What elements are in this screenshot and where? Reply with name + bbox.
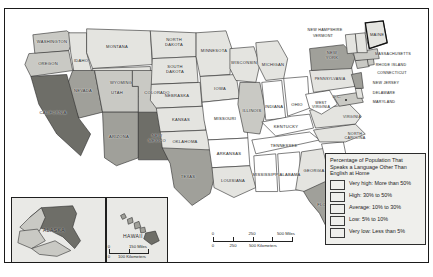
state-wisconsin <box>230 47 260 83</box>
legend-item-average: Average: 10% to 30% <box>330 204 422 215</box>
alaska-label: ALASKA <box>43 227 65 233</box>
main-mi-unit: 500 Miles <box>277 231 295 236</box>
state-north-dakota <box>150 31 196 59</box>
legend-label-very-low: Very low: Less than 5% <box>349 228 405 234</box>
legend-label-average: Average: 10% to 30% <box>349 204 401 210</box>
state-washington <box>33 31 75 54</box>
main-km-unit: 500 Kilometers <box>249 243 277 248</box>
language-map: WASHINGTON OREGON IDAHO MONTANA WYOMING … <box>0 0 433 277</box>
state-montana <box>87 29 153 69</box>
state-michigan <box>256 41 288 81</box>
dc-marker <box>345 99 347 101</box>
state-utah <box>95 71 139 113</box>
legend-label-very-high: Very high: More than 50% <box>349 180 411 186</box>
legend-swatch-very-low <box>330 228 345 238</box>
state-indiana <box>262 80 286 120</box>
state-iowa <box>200 74 240 102</box>
state-arizona <box>103 112 139 166</box>
hawaii-label: HAWAII <box>123 233 143 239</box>
main-bar <box>213 237 293 242</box>
legend-swatch-very-high <box>330 180 345 190</box>
main-km-0: 0 <box>212 243 214 248</box>
hi-km-0: 0 <box>108 254 110 259</box>
state-mississippi <box>254 154 278 192</box>
legend-item-low: Low: 5% to 10% <box>330 216 422 227</box>
state-minnesota <box>196 31 232 77</box>
legend-item-very-low: Very low: Less than 5% <box>330 228 422 239</box>
state-nebraska <box>150 82 202 108</box>
main-mi-0: 0 <box>212 231 214 236</box>
legend-label-low: Low: 5% to 10% <box>349 216 388 222</box>
legend-title: Percentage of Population That Speaks a L… <box>330 157 422 177</box>
hawaii-scale-bar: 0 150 Miles 0 100 Kilometers <box>109 249 157 254</box>
legend-label-high: High: 30% to 50% <box>349 192 392 198</box>
main-km-250: 250 <box>230 243 237 248</box>
legend-swatch-low <box>330 216 345 226</box>
hi-km-unit: 100 Kilometers <box>118 254 146 259</box>
state-louisiana <box>212 166 256 198</box>
legend-item-very-high: Very high: More than 50% <box>330 180 422 191</box>
state-oregon <box>25 51 73 77</box>
legend-swatch-high <box>330 192 345 202</box>
legend-swatch-average <box>330 204 345 214</box>
legend-item-high: High: 30% to 50% <box>330 192 422 203</box>
main-scale-bar: 0 250 500 Miles 0 250 500 Kilometers <box>213 237 301 242</box>
main-mi-250: 250 <box>249 231 256 236</box>
alaska-inset: ALASKA 0 300 Miles 0 500 Kilometers <box>11 197 106 263</box>
state-ohio <box>284 76 310 116</box>
state-arkansas <box>208 138 250 168</box>
map-frame: WASHINGTON OREGON IDAHO MONTANA WYOMING … <box>4 8 429 263</box>
state-south-dakota <box>151 57 198 85</box>
map-legend: Percentage of Population That Speaks a L… <box>325 153 426 245</box>
state-texas <box>162 148 216 206</box>
state-kansas <box>156 106 206 132</box>
